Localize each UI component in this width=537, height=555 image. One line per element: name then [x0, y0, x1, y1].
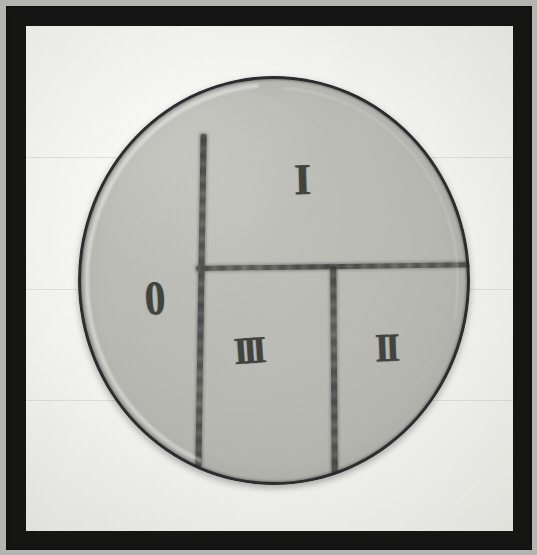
- petri-dish: 0 I II III: [78, 76, 470, 485]
- dish-rim: [78, 76, 470, 485]
- photograph: 0 I II III: [0, 0, 537, 555]
- photo-black-frame: 0 I II III: [6, 6, 532, 550]
- photo-backdrop: 0 I II III: [26, 26, 513, 531]
